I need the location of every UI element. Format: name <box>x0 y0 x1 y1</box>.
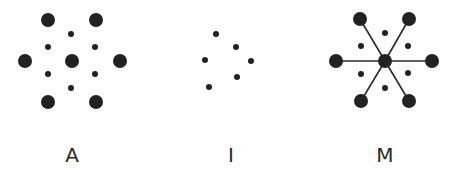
lattice-diagram: A I M <box>0 0 458 170</box>
small-dot <box>248 58 254 64</box>
panel-a-dots <box>18 13 127 109</box>
small-dot <box>45 44 51 50</box>
small-dot <box>382 30 388 36</box>
large-dot <box>113 54 127 68</box>
small-dot <box>213 31 219 37</box>
small-dot <box>206 84 212 90</box>
panel-a: A <box>18 13 127 167</box>
panel-i-label: I <box>228 143 234 167</box>
large-dot <box>353 12 367 26</box>
small-dot <box>202 57 208 63</box>
small-dot <box>358 71 364 77</box>
large-dot <box>425 54 439 68</box>
panel-i: I <box>202 31 254 167</box>
small-dot <box>45 71 51 77</box>
small-dot <box>92 44 98 50</box>
large-dot <box>329 54 343 68</box>
large-dot <box>378 54 392 68</box>
small-dot <box>68 85 74 91</box>
small-dot <box>234 74 240 80</box>
small-dot <box>68 31 74 37</box>
large-dot <box>354 94 368 108</box>
large-dot <box>41 13 55 27</box>
bond-line <box>360 19 385 61</box>
small-dot <box>358 43 364 49</box>
large-dot <box>89 13 103 27</box>
small-dot <box>92 71 98 77</box>
large-dot <box>41 95 55 109</box>
large-dot <box>18 54 32 68</box>
panel-a-label: A <box>65 143 79 167</box>
panel-m-label: M <box>376 143 393 167</box>
small-dot <box>405 70 411 76</box>
small-dot <box>233 44 239 50</box>
large-dot <box>402 94 416 108</box>
panel-i-dots <box>202 31 254 90</box>
large-dot <box>89 95 103 109</box>
bond-line <box>385 19 409 61</box>
panel-m-dots <box>329 12 439 108</box>
large-dot <box>402 12 416 26</box>
large-dot <box>65 54 79 68</box>
small-dot <box>405 43 411 49</box>
small-dot <box>382 85 388 91</box>
panel-m: M <box>329 12 439 167</box>
